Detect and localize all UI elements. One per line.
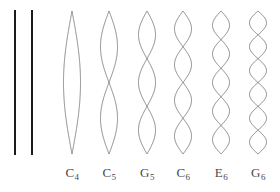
wave-g6 — [250, 11, 267, 154]
wave-c4-envelope-negative — [64, 11, 73, 154]
wave-c5-envelope-negative — [101, 11, 118, 154]
harmonic-series-figure: C4C5G5C6E6G6 — [0, 0, 280, 192]
wave-c4-envelope-positive — [72, 11, 81, 154]
label-g6: G6 — [238, 166, 278, 179]
wave-c4 — [64, 11, 81, 154]
wave-g6-envelope-negative — [250, 11, 267, 154]
label-c6-octave: 6 — [186, 172, 191, 182]
label-g5: G5 — [127, 166, 167, 179]
standing-wave-diagram — [0, 0, 280, 192]
wave-c5 — [101, 11, 118, 154]
label-g6-note: G — [251, 165, 260, 180]
wave-g5-envelope-positive — [139, 11, 156, 154]
label-c4: C4 — [52, 166, 92, 179]
label-g5-note: G — [140, 165, 149, 180]
label-g5-octave: 5 — [150, 172, 155, 182]
label-c4-octave: 4 — [75, 172, 80, 182]
label-g6-octave: 6 — [261, 172, 266, 182]
label-c6: C6 — [163, 166, 203, 179]
label-e6: E6 — [201, 166, 241, 179]
label-e6-octave: 6 — [223, 172, 228, 182]
label-c6-note: C — [176, 165, 185, 180]
wave-g5 — [139, 11, 156, 154]
label-e6-note: E — [215, 165, 223, 180]
wave-c6-envelope-negative — [175, 11, 192, 154]
label-c5: C5 — [89, 166, 129, 179]
wave-e6 — [213, 11, 230, 154]
label-c5-octave: 5 — [112, 172, 117, 182]
wave-g5-envelope-negative — [139, 11, 156, 154]
wave-c6 — [175, 11, 192, 154]
label-c4-note: C — [65, 165, 74, 180]
label-c5-note: C — [102, 165, 111, 180]
